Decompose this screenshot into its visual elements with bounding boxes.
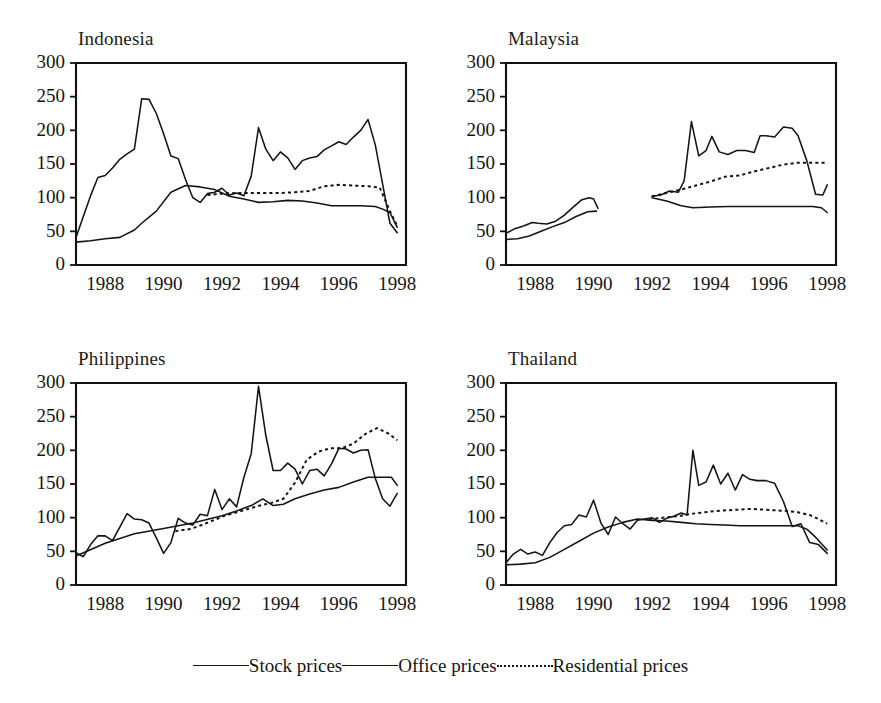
y-tick-label: 100 (37, 506, 66, 527)
plot-frame (76, 383, 406, 585)
series-line-stock-prices (76, 99, 397, 238)
x-tick-label: 1996 (750, 273, 788, 294)
y-tick-label: 300 (467, 51, 496, 72)
panel-plot-area: 0501001502002503001988199019921994199619… (0, 0, 440, 320)
asset-price-figure: Indonesia0501001502002503001988199019921… (0, 0, 881, 703)
x-tick-label: 1990 (145, 273, 183, 294)
x-tick-label: 1988 (516, 593, 554, 614)
y-tick-label: 250 (467, 405, 496, 426)
x-tick-label: 1996 (320, 273, 358, 294)
panel-plot-area: 0501001502002503001988199019921994199619… (0, 320, 440, 640)
x-tick-label: 1988 (86, 273, 124, 294)
y-tick-label: 50 (476, 220, 495, 241)
series-line-stock-prices (506, 198, 598, 234)
x-tick-label: 1996 (750, 593, 788, 614)
x-tick-label: 1998 (808, 273, 846, 294)
panel-plot-area: 0501001502002503001988199019921994199619… (430, 0, 870, 320)
series-line-office-prices-second-segment (652, 198, 827, 213)
x-tick-label: 1990 (145, 593, 183, 614)
y-tick-label: 0 (56, 573, 66, 594)
chart-panel-indonesia: Indonesia0501001502002503001988199019921… (0, 0, 440, 320)
y-tick-label: 0 (486, 573, 496, 594)
x-tick-label: 1998 (808, 593, 846, 614)
legend-entry-residential-prices: Residential prices (497, 656, 689, 675)
panel-plot-area: 0501001502002503001988199019921994199619… (430, 320, 870, 640)
y-tick-label: 0 (486, 253, 496, 274)
series-line-office-prices (76, 477, 397, 556)
y-tick-label: 0 (56, 253, 66, 274)
y-tick-label: 150 (467, 152, 496, 173)
series-line-residential-prices (175, 428, 397, 531)
series-line-stock-prices (76, 386, 397, 556)
x-tick-label: 1992 (633, 273, 671, 294)
x-tick-label: 1994 (261, 593, 300, 614)
x-tick-label: 1998 (378, 273, 416, 294)
y-tick-label: 150 (37, 472, 66, 493)
chart-panel-malaysia: Malaysia05010015020025030019881990199219… (430, 0, 870, 320)
x-tick-label: 1994 (691, 273, 730, 294)
legend-label-office-prices: Office prices (398, 656, 496, 675)
chart-panel-thailand: Thailand05010015020025030019881990199219… (430, 320, 870, 640)
panel-title: Indonesia (78, 28, 154, 50)
y-tick-label: 100 (467, 506, 496, 527)
legend-label-residential-prices: Residential prices (553, 656, 689, 675)
y-tick-label: 100 (467, 186, 496, 207)
x-tick-label: 1990 (575, 273, 613, 294)
series-line-stock-prices-second-segment (652, 122, 827, 197)
y-tick-label: 200 (37, 439, 66, 460)
x-tick-label: 1996 (320, 593, 358, 614)
y-tick-label: 50 (46, 220, 65, 241)
y-tick-label: 300 (467, 371, 496, 392)
series-line-office-prices (76, 186, 397, 243)
x-tick-label: 1998 (378, 593, 416, 614)
legend-entry-office-prices: Office prices (342, 656, 496, 675)
y-tick-label: 100 (37, 186, 66, 207)
y-tick-label: 200 (467, 119, 496, 140)
x-tick-label: 1992 (203, 593, 241, 614)
y-tick-label: 50 (476, 540, 495, 561)
y-tick-label: 250 (37, 85, 66, 106)
y-tick-label: 150 (467, 472, 496, 493)
x-tick-label: 1990 (575, 593, 613, 614)
series-line-office-prices (506, 211, 597, 239)
x-tick-label: 1994 (261, 273, 300, 294)
dotted-line-swatch-icon (497, 660, 553, 670)
legend-label-stock-prices: Stock prices (249, 656, 342, 675)
x-tick-label: 1988 (516, 273, 554, 294)
y-tick-label: 200 (37, 119, 66, 140)
x-tick-label: 1994 (691, 593, 730, 614)
y-tick-label: 300 (37, 371, 66, 392)
series-line-residential-prices (652, 163, 827, 197)
legend-entry-stock-prices: Stock prices (193, 656, 342, 675)
y-tick-label: 50 (46, 540, 65, 561)
series-line-stock-prices (506, 450, 827, 562)
y-tick-label: 200 (467, 439, 496, 460)
y-tick-label: 250 (37, 405, 66, 426)
figure-legend: Stock prices Office prices Residential p… (0, 648, 881, 682)
solid-line-swatch-icon (193, 660, 249, 670)
panel-title: Philippines (78, 348, 166, 370)
panel-title: Malaysia (508, 28, 579, 50)
solid-line-swatch-icon (342, 660, 398, 670)
x-tick-label: 1992 (633, 593, 671, 614)
panel-title: Thailand (508, 348, 577, 370)
y-tick-label: 300 (37, 51, 66, 72)
y-tick-label: 150 (37, 152, 66, 173)
x-tick-label: 1992 (203, 273, 241, 294)
x-tick-label: 1988 (86, 593, 124, 614)
series-line-office-prices (506, 519, 827, 565)
chart-panel-philippines: Philippines05010015020025030019881990199… (0, 320, 440, 640)
y-tick-label: 250 (467, 85, 496, 106)
